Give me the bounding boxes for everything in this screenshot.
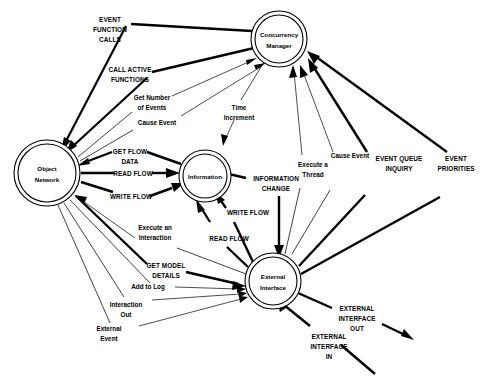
label-time-increment: Time Increment: [224, 104, 255, 121]
node-object-network-label-line2: Network: [35, 176, 60, 183]
node-external-interface-label-line2: Interface: [260, 284, 286, 291]
svg-text:Execute a: Execute a: [298, 161, 328, 168]
svg-text:Increment: Increment: [224, 114, 255, 121]
svg-text:PRIORITIES: PRIORITIES: [437, 165, 475, 172]
svg-text:DETAILS: DETAILS: [152, 272, 180, 279]
svg-text:READ FLOW: READ FLOW: [113, 170, 153, 177]
svg-text:READ FLOW: READ FLOW: [209, 235, 249, 242]
label-get-number-of-events: Get Number of Events: [134, 94, 171, 111]
svg-text:CALL ACTIVE: CALL ACTIVE: [109, 66, 153, 73]
svg-text:FUNCTIONS: FUNCTIONS: [111, 76, 150, 83]
svg-text:Out: Out: [120, 311, 132, 318]
flow-cause-event-right[interactable]: [292, 65, 333, 254]
label-external-event: External Event: [96, 325, 121, 342]
svg-text:EVENT: EVENT: [445, 155, 467, 162]
node-concurrency-manager-label-line1: Concurrency: [260, 31, 299, 38]
svg-text:EXTERNAL: EXTERNAL: [339, 305, 374, 312]
node-external-interface[interactable]: External Interface: [245, 253, 301, 309]
svg-text:External: External: [96, 325, 121, 332]
node-information-label-line1: Information: [188, 173, 222, 180]
svg-text:Get Number: Get Number: [134, 94, 171, 101]
label-cause-event-left: Cause Event: [138, 119, 177, 126]
label-write-flow-on: WRITE FLOW: [110, 193, 153, 200]
data-flow-diagram: Object Network Concurrency Manager Infor…: [0, 0, 483, 388]
flow-get-number-of-events[interactable]: [78, 58, 257, 157]
svg-text:GET FLOW: GET FLOW: [113, 148, 148, 155]
svg-text:WRITE FLOW: WRITE FLOW: [110, 193, 153, 200]
label-external-interface-in: EXTERNAL INTERFACE IN: [310, 333, 348, 360]
svg-text:DATA: DATA: [121, 158, 138, 165]
label-event-priorities: EVENT PRIORITIES: [437, 155, 475, 172]
svg-text:Cause Event: Cause Event: [138, 119, 177, 126]
label-execute-an-interaction: Execute an Interaction: [138, 224, 172, 241]
svg-text:Time: Time: [232, 104, 247, 111]
flow-write-flow-ei[interactable]: [215, 192, 253, 262]
svg-text:Add to Log: Add to Log: [131, 283, 165, 291]
label-read-flow-on: READ FLOW: [113, 170, 153, 177]
label-get-flow-data: GET FLOW DATA: [113, 148, 148, 165]
label-external-interface-out: EXTERNAL INTERFACE OUT: [338, 305, 376, 332]
label-cause-event-right: Cause Event: [331, 152, 370, 159]
svg-text:EXTERNAL: EXTERNAL: [311, 333, 346, 340]
svg-text:INTERFACE: INTERFACE: [310, 343, 348, 350]
node-concurrency-manager-label-line2: Manager: [266, 42, 292, 49]
svg-text:Cause Event: Cause Event: [331, 152, 370, 159]
svg-text:EVENT QUEUE: EVENT QUEUE: [376, 155, 424, 163]
svg-text:WRITE FLOW: WRITE FLOW: [227, 209, 270, 216]
label-information-change: INFORMATION CHANGE: [253, 175, 299, 192]
node-information[interactable]: Information: [179, 150, 231, 202]
svg-text:Execute an: Execute an: [138, 224, 172, 231]
svg-text:EVENT: EVENT: [99, 16, 121, 23]
svg-text:IN: IN: [326, 353, 333, 360]
label-get-model-details: GET MODEL DETAILS: [147, 262, 186, 279]
svg-text:INFORMATION: INFORMATION: [253, 175, 299, 182]
label-add-to-log: Add to Log: [131, 283, 165, 291]
svg-text:of Events: of Events: [138, 104, 167, 111]
svg-text:CHANGE: CHANGE: [262, 185, 291, 192]
svg-text:INTERFACE: INTERFACE: [338, 315, 376, 322]
node-concurrency-manager[interactable]: Concurrency Manager: [251, 11, 307, 67]
svg-text:Event: Event: [100, 335, 118, 342]
dfd-canvas: Object Network Concurrency Manager Infor…: [0, 0, 483, 388]
svg-text:OUT: OUT: [350, 325, 364, 332]
node-object-network[interactable]: Object Network: [14, 140, 80, 206]
label-interaction-out: Interaction Out: [110, 301, 143, 318]
svg-text:GET MODEL: GET MODEL: [147, 262, 186, 269]
node-external-interface-label-line1: External: [261, 273, 286, 280]
svg-text:FUNCTION: FUNCTION: [93, 26, 127, 33]
node-object-network-label-line1: Object: [37, 165, 56, 172]
svg-text:Interaction: Interaction: [110, 301, 143, 308]
svg-text:Interaction: Interaction: [139, 234, 172, 241]
svg-text:INQUIRY: INQUIRY: [385, 165, 413, 173]
label-call-active-functions: CALL ACTIVE FUNCTIONS: [109, 66, 153, 83]
svg-text:CALLS: CALLS: [99, 36, 121, 43]
label-write-flow-ei: WRITE FLOW: [227, 209, 270, 216]
label-read-flow-ei: READ FLOW: [209, 235, 249, 242]
label-execute-a-thread: Execute a Thread: [298, 161, 328, 178]
label-event-function-calls: EVENT FUNCTION CALLS: [93, 16, 127, 43]
flow-cause-event-left[interactable]: [80, 63, 266, 161]
flow-execute-a-thread[interactable]: [285, 65, 302, 254]
svg-text:Thread: Thread: [302, 171, 323, 178]
label-event-queue-inquiry: EVENT QUEUE INQUIRY: [376, 155, 424, 173]
